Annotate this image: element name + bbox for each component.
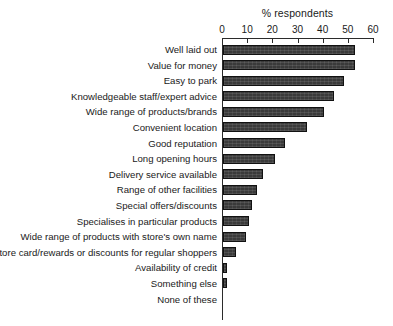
x-tick-label-20: 20 [267, 24, 278, 35]
x-tick-mark-0 [222, 38, 223, 43]
x-tick-label-50: 50 [342, 24, 353, 35]
bar-row: Easy to park [0, 74, 393, 90]
x-tick-mark-30 [298, 38, 299, 43]
bar-row: Well laid out [0, 43, 393, 59]
bar [223, 185, 257, 195]
bar-row: Wide range of products/brands [0, 105, 393, 121]
category-label: Range of other facilities [117, 184, 217, 195]
bar-row: Wide range of products with store's own … [0, 230, 393, 246]
bar-row: Something else [0, 277, 393, 293]
category-label: Store card/rewards or discounts for regu… [0, 247, 217, 258]
bar [223, 138, 285, 148]
bar [223, 45, 355, 55]
bar [223, 169, 263, 179]
bar-chart: % respondents 0102030405060 Well laid ou… [0, 0, 393, 326]
bar [223, 200, 252, 210]
category-label: Well laid out [165, 44, 217, 55]
bar-row: Special offers/discounts [0, 199, 393, 215]
bar-row: Long opening hours [0, 152, 393, 168]
category-label: Knowledgeable staff/expert advice [71, 91, 217, 102]
category-label: Specialises in particular products [77, 216, 217, 227]
category-label: Something else [151, 278, 217, 289]
category-label: Availability of credit [135, 262, 217, 273]
x-tick-mark-50 [348, 38, 349, 43]
bar-row: Convenient location [0, 121, 393, 137]
category-label: Long opening hours [132, 153, 217, 164]
bar-row: Good reputation [0, 137, 393, 153]
x-tick-label-30: 30 [292, 24, 303, 35]
category-label: Convenient location [133, 122, 217, 133]
bar-row: Store card/rewards or discounts for regu… [0, 246, 393, 262]
bar [223, 232, 246, 242]
bar [223, 278, 227, 288]
category-label: Good reputation [148, 138, 217, 149]
bar [223, 107, 324, 117]
x-tick-mark-20 [272, 38, 273, 43]
bar-row: Knowledgeable staff/expert advice [0, 90, 393, 106]
bar [223, 76, 344, 86]
x-axis-tick-labels: 0102030405060 [0, 24, 393, 36]
x-tick-mark-10 [247, 38, 248, 43]
bar [223, 263, 227, 273]
category-label: Wide range of products/brands [86, 106, 217, 117]
bar-row: None of these [0, 293, 393, 309]
category-label: Delivery service available [109, 169, 217, 180]
bar [223, 216, 249, 226]
category-label: Special offers/discounts [116, 200, 217, 211]
x-tick-label-10: 10 [242, 24, 253, 35]
bar-row: Specialises in particular products [0, 215, 393, 231]
axis-title: % respondents [222, 7, 373, 19]
category-label: Wide range of products with store's own … [21, 231, 217, 242]
category-label: Value for money [148, 60, 217, 71]
x-tick-mark-40 [323, 38, 324, 43]
bar-row: Range of other facilities [0, 183, 393, 199]
category-label: None of these [157, 294, 217, 305]
bar [223, 122, 307, 132]
x-tick-label-40: 40 [317, 24, 328, 35]
x-tick-label-0: 0 [219, 24, 225, 35]
bar [223, 154, 275, 164]
bar [223, 91, 334, 101]
bar-row: Delivery service available [0, 168, 393, 184]
category-label: Easy to park [164, 75, 217, 86]
bar-row: Value for money [0, 59, 393, 75]
bar-rows: Well laid outValue for moneyEasy to park… [0, 43, 393, 308]
x-tick-label-60: 60 [367, 24, 378, 35]
x-tick-mark-60 [373, 38, 374, 43]
bar-row: Availability of credit [0, 261, 393, 277]
bar [223, 60, 355, 70]
bar [223, 247, 236, 257]
